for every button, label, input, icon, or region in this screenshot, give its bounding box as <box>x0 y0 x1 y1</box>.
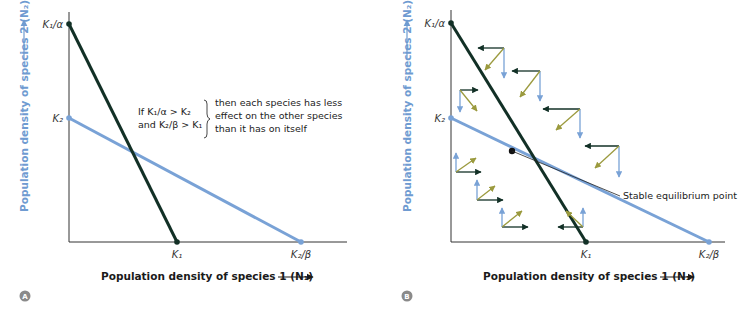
vector-arrows-upper <box>478 48 619 177</box>
panel-badge-b-label: B <box>404 293 409 301</box>
tick-k1: K₁ <box>581 249 592 260</box>
panel-b: Stable equilibrium point K₁/α K₂ K₁ K₂/β <box>401 0 737 302</box>
result-line-1: then each species has less <box>215 97 342 108</box>
x-axis-title: Population density of species 1 (N₁) <box>483 270 695 282</box>
figure-canvas: K₁/α K₂ K₁ K₂/β If K₁/α > K₂ and K₂/β > … <box>0 0 738 317</box>
panel-badge-a-label: A <box>22 293 28 301</box>
equilibrium-label: Stable equilibrium point <box>623 190 737 201</box>
k1-point <box>174 239 180 245</box>
x-axis-title: Population density of species 1 (N₁) <box>101 270 313 282</box>
k1-alpha-point <box>66 21 72 27</box>
tick-k2: K₂ <box>52 113 63 124</box>
tick-k2-beta: K₂/β <box>699 249 720 260</box>
tick-k2: K₂ <box>434 113 445 124</box>
tick-k1-alpha: K₁/α <box>42 19 63 30</box>
curly-brace <box>204 100 210 138</box>
species2-isocline <box>69 118 301 242</box>
equilibrium-leader-line <box>512 151 620 196</box>
vector-arrows-lower-left <box>456 153 528 227</box>
vector-arrows-middle-left <box>460 90 478 112</box>
k1-alpha-point <box>448 20 454 26</box>
k2-beta-point <box>298 239 304 245</box>
tick-k1-alpha: K₁/α <box>424 18 445 29</box>
result-line-3: than it has on itself <box>215 123 307 134</box>
condition-line-2: and K₂/β > K₁ <box>138 119 202 130</box>
species1-isocline <box>69 24 177 242</box>
condition-line-1: If K₁/α > K₂ <box>138 106 191 117</box>
k1-point <box>583 239 589 245</box>
result-line-2: effect on the other species <box>215 110 343 121</box>
tick-k1: K₁ <box>172 249 183 260</box>
k2-beta-point <box>706 239 712 245</box>
tick-k2-beta: K₂/β <box>291 249 312 260</box>
panel-a: K₁/α K₂ K₁ K₂/β If K₁/α > K₂ and K₂/β > … <box>18 0 347 302</box>
species1-isocline <box>451 23 586 242</box>
k2-point <box>448 115 454 121</box>
k2-point <box>66 115 72 121</box>
